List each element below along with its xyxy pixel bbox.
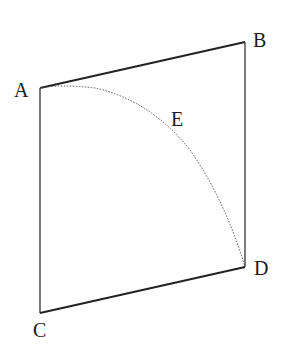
arc-ae-d [40,86,245,267]
label-d: D [254,257,268,279]
label-b: B [253,29,266,51]
segment-ab [40,42,245,88]
label-a: A [14,79,29,101]
segment-cd [40,267,245,313]
geometry-diagram: A B E D C [0,0,290,354]
label-e: E [171,108,183,130]
label-c: C [33,319,46,341]
